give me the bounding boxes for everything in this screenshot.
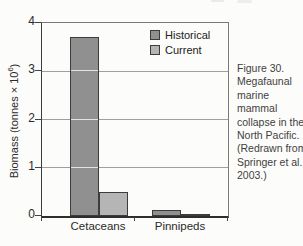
y-axis-title: Biomass (tonnes × 106) [6,36,20,206]
y-tick-label-1: 1 [19,159,35,173]
caption-line: Springer et al. [237,156,303,169]
legend-item-historical: Historical [150,29,210,41]
caption-line: marine [237,89,303,102]
caption-line: mammal [237,102,303,115]
gridline-over-bar [71,167,98,168]
figure-caption: Figure 30. Megafaunal marine mammal coll… [237,62,303,183]
bar-cetaceans-current [99,192,128,216]
plot-area: Historical Current [41,22,229,218]
gridline-over-bar [71,119,98,120]
scan-artifact [211,0,224,2]
y-tick-mark [35,119,41,120]
y-tick-label-3: 3 [19,62,35,76]
y-tick-label-4: 4 [19,14,35,28]
y-tick-label-0: 0 [19,207,35,221]
bar-cetaceans-historical [70,37,99,216]
y-tick-mark [35,215,41,216]
y-tick-mark [35,167,41,168]
scan-artifact [237,0,252,3]
x-category-label-cetaceans: Cetaceans [58,220,138,232]
legend-swatch-historical-icon [150,30,160,40]
x-tick-mark [134,217,135,221]
caption-line: 2003.) [237,169,303,182]
legend: Historical Current [150,29,210,56]
x-category-label-pinnipeds: Pinnipeds [140,220,220,232]
y-tick-mark [35,22,41,23]
caption-line: collapse in the [237,116,303,129]
legend-swatch-current-icon [150,45,160,55]
caption-line: North Pacific. [237,129,303,142]
caption-line: Megafaunal [237,75,303,88]
bar-pinnipeds-current [181,214,210,216]
x-tick-mark [41,217,42,221]
gridline-over-bar [71,70,98,71]
legend-label-historical: Historical [165,29,210,41]
y-axis-title-superscript: 6 [6,67,15,71]
figure-page: Biomass (tonnes × 106) Historical Curren… [0,0,303,246]
bar-pinnipeds-historical [152,210,181,216]
caption-line: (Redrawn from [237,142,303,155]
x-tick-mark [227,217,228,221]
y-tick-label-2: 2 [19,111,35,125]
legend-label-current: Current [165,44,202,56]
legend-item-current: Current [150,44,210,56]
caption-line: Figure 30. [237,62,303,75]
y-tick-mark [35,70,41,71]
